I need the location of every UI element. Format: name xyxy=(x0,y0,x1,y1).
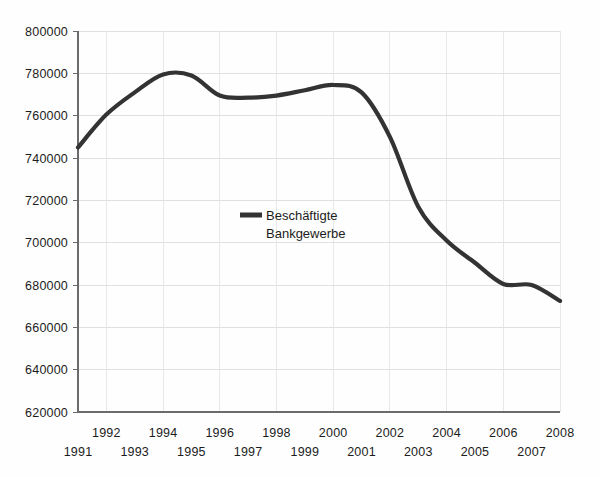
x-axis-tick-label: 2008 xyxy=(546,426,575,440)
x-axis-tick-label: 1993 xyxy=(120,445,149,459)
x-axis-tick-label: 2005 xyxy=(461,445,490,459)
x-axis-tick-label: 2000 xyxy=(319,426,348,440)
x-axis-tick-label: 2006 xyxy=(489,426,518,440)
x-axis-tick-label: 1997 xyxy=(234,445,263,459)
x-axis-tick-label: 1992 xyxy=(92,426,121,440)
x-axis-tick-labels-lower-row: 199119931995199719992001200320052007 xyxy=(64,445,546,459)
y-axis-tick-label: 700000 xyxy=(25,236,68,250)
y-axis-tick-label: 720000 xyxy=(25,194,68,208)
y-axis-tick-label: 680000 xyxy=(25,279,68,293)
x-axis-tick-label: 2004 xyxy=(432,426,461,440)
y-axis-tick-label: 620000 xyxy=(25,406,68,420)
y-axis-tick-label: 780000 xyxy=(25,67,68,81)
x-axis-tick-label: 2001 xyxy=(347,445,376,459)
x-axis-tick-label: 2002 xyxy=(376,426,405,440)
chart-container: 6200006400006600006800007000007200007400… xyxy=(0,0,600,477)
y-axis-tick-label: 760000 xyxy=(25,109,68,123)
x-axis-tick-label: 1995 xyxy=(177,445,206,459)
legend-label-line-1: Beschäftigte xyxy=(266,208,338,223)
x-axis-tick-label: 2003 xyxy=(404,445,433,459)
x-axis-tick-labels-upper-row: 199219941996199820002002200420062008 xyxy=(92,426,574,440)
x-axis-tick-label: 1996 xyxy=(205,426,234,440)
y-axis-tick-label: 740000 xyxy=(25,152,68,166)
x-axis-tick-label: 1998 xyxy=(262,426,291,440)
x-axis-tick-label: 1991 xyxy=(64,445,93,459)
legend-label-line-2: Bankgewerbe xyxy=(266,226,346,241)
x-axis-tick-label: 1999 xyxy=(291,445,320,459)
x-axis-tick-label: 1994 xyxy=(149,426,178,440)
y-axis-tick-label: 660000 xyxy=(25,321,68,335)
line-chart: 6200006400006600006800007000007200007400… xyxy=(0,0,600,477)
y-axis-tick-label: 640000 xyxy=(25,363,68,377)
y-axis-tick-label: 800000 xyxy=(25,25,68,39)
x-axis-tick-label: 2007 xyxy=(517,445,546,459)
